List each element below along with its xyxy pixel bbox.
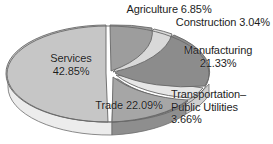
slice-label-agriculture: Agriculture 6.85% xyxy=(104,3,234,16)
trade-label-text: Trade 22.09% xyxy=(83,99,175,112)
slice-label-services: Services 42.85% xyxy=(29,52,113,77)
construction-label-text: Construction 3.04% xyxy=(136,16,270,29)
manufacturing-label-name: Manufacturing xyxy=(166,44,270,57)
manufacturing-label-value: 21.33% xyxy=(166,57,270,70)
slice-label-manufacturing: Manufacturing 21.33% xyxy=(166,44,270,69)
transportation-label-line2: Public Utilities xyxy=(171,101,273,114)
services-label-value: 42.85% xyxy=(29,65,113,78)
services-label-name: Services xyxy=(29,52,113,65)
agriculture-label-text: Agriculture 6.85% xyxy=(104,3,234,16)
transportation-label-value: 3.66% xyxy=(171,113,273,126)
slice-label-trade: Trade 22.09% xyxy=(83,99,175,112)
slice-label-transportation: Transportation– Public Utilities 3.66% xyxy=(171,88,273,126)
pie-chart-figure: Agriculture 6.85% Construction 3.04% Man… xyxy=(0,0,273,144)
slice-label-construction: Construction 3.04% xyxy=(136,16,270,29)
transportation-label-line1: Transportation– xyxy=(171,88,273,101)
